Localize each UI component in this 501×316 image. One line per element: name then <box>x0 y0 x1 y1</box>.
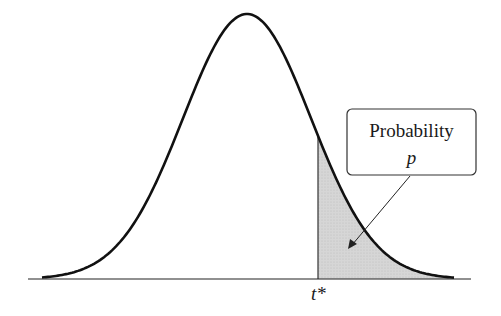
callout-title: Probability <box>369 120 454 141</box>
arrow-icon <box>348 176 410 249</box>
t-distribution-figure: Probability p t* <box>0 0 501 316</box>
critical-value-label: t* <box>311 283 326 304</box>
callout-symbol: p <box>405 147 417 168</box>
